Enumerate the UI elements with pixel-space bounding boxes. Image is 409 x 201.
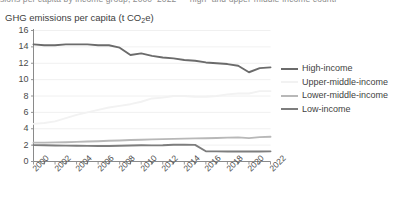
axes bbox=[31, 29, 271, 165]
legend-item[interactable]: Upper-middle-income bbox=[281, 76, 409, 90]
y-tick-label: 2 bbox=[5, 141, 29, 150]
legend-line-swatch bbox=[281, 91, 298, 100]
legend-label: Low-income bbox=[302, 105, 351, 114]
legend-label: Lower-middle-income bbox=[302, 91, 388, 100]
y-tick-label: 12 bbox=[5, 59, 29, 68]
legend-label: Upper-middle-income bbox=[302, 78, 388, 87]
legend-item[interactable]: High-income bbox=[281, 62, 409, 76]
y-tick-label: 8 bbox=[5, 92, 29, 101]
legend-line-swatch bbox=[281, 105, 298, 114]
gridlines bbox=[34, 31, 271, 146]
y-tick-label: 6 bbox=[5, 108, 29, 117]
y-tick-label: 0 bbox=[5, 157, 29, 166]
legend-item[interactable]: Low-income bbox=[281, 103, 409, 117]
legend-item[interactable]: Lower-middle-income bbox=[281, 89, 409, 103]
chart-figure: sions per capita by income group, 2000–2… bbox=[0, 0, 409, 201]
y-tick-label: 10 bbox=[5, 75, 29, 84]
y-tick-label: 14 bbox=[5, 42, 29, 51]
legend-line-swatch bbox=[281, 64, 298, 73]
legend-line-swatch bbox=[281, 78, 298, 87]
data-series bbox=[34, 44, 271, 151]
chart-legend: High-incomeUpper-middle-incomeLower-midd… bbox=[281, 62, 409, 116]
legend-label: High-income bbox=[302, 64, 353, 73]
y-tick-label: 4 bbox=[5, 124, 29, 133]
y-tick-label: 16 bbox=[5, 26, 29, 35]
